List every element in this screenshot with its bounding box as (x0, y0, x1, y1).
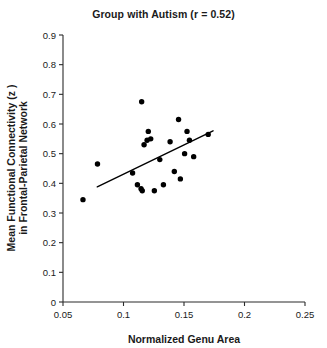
x-axis-group: 0.050.10.150.20.25 (54, 302, 315, 320)
y-axis-group: 00.10.20.30.40.50.60.70.80.9 (43, 30, 63, 308)
x-tick-labels: 0.050.10.150.20.25 (54, 309, 315, 320)
data-point (161, 182, 166, 187)
x-tick-label: 0.15 (175, 309, 194, 320)
x-axis-title: Normalized Genu Area (128, 333, 240, 345)
data-point (191, 154, 196, 159)
data-point (148, 136, 153, 141)
y-tick-label: 0.3 (43, 208, 56, 219)
y-tick-label: 0.9 (43, 30, 56, 41)
plot-canvas: 00.10.20.30.40.50.60.70.80.9 0.050.10.15… (0, 0, 327, 348)
y-axis-title-line2: in Frontal-Parietal Network (17, 101, 29, 235)
y-tick-label: 0.5 (43, 148, 56, 159)
data-point (172, 169, 177, 174)
data-point (152, 188, 157, 193)
data-point (167, 139, 172, 144)
data-point (141, 142, 146, 147)
data-point (80, 197, 85, 202)
x-tick-label: 0.1 (117, 309, 130, 320)
data-point (176, 117, 181, 122)
data-point (95, 161, 100, 166)
y-tick-label: 0.8 (43, 59, 56, 70)
data-point (146, 129, 151, 134)
x-tick-marks (63, 302, 305, 306)
x-tick-label: 0.2 (238, 309, 251, 320)
data-point (184, 129, 189, 134)
y-tick-marks (59, 35, 63, 302)
data-point (139, 99, 144, 104)
y-tick-labels: 00.10.20.30.40.50.60.70.80.9 (43, 30, 56, 308)
y-tick-label: 0.4 (43, 178, 56, 189)
data-point (182, 151, 187, 156)
y-axis-title-line1: Mean Functional Connectivity (z ) (5, 85, 17, 252)
y-tick-label: 0.7 (43, 89, 56, 100)
data-points (80, 99, 211, 202)
scatter-plot-figure: Group with Autism (r = 0.52) 00.10.20.30… (0, 0, 327, 348)
y-tick-label: 0.1 (43, 267, 56, 278)
y-tick-label: 0 (51, 297, 56, 308)
x-tick-label: 0.25 (296, 309, 315, 320)
y-tick-label: 0.2 (43, 237, 56, 248)
x-tick-label: 0.05 (54, 309, 73, 320)
y-tick-label: 0.6 (43, 119, 56, 130)
data-point (140, 188, 145, 193)
regression-line (97, 131, 213, 187)
data-point (178, 176, 183, 181)
